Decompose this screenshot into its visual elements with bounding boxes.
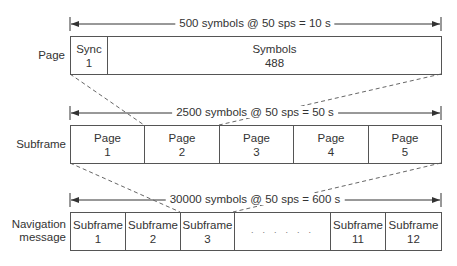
- navigation-message-structure: Subframe 1 Subframe 2 Subframe 3 · · · ·…: [70, 212, 442, 251]
- sync-cell: Sync 1: [71, 37, 108, 74]
- symbols-cell: Symbols 488: [108, 37, 441, 74]
- subframe-cell-12: Subframe 12: [386, 213, 441, 250]
- subframe-cell-11: Subframe 11: [331, 213, 386, 250]
- cell-value: 488: [265, 56, 284, 70]
- cell-value: 1: [86, 56, 92, 70]
- cell-value: 5: [402, 145, 408, 159]
- cell-value: 2: [179, 145, 185, 159]
- cell-title: Subframe: [128, 218, 178, 232]
- ellipsis-dots: · · · · · ·: [251, 225, 315, 239]
- page-cell-3: Page 3: [220, 126, 294, 163]
- label-line-1: Navigation: [2, 218, 66, 231]
- cell-value: 1: [95, 232, 101, 246]
- cell-value: 11: [352, 232, 364, 246]
- cell-title: Subframe: [333, 218, 383, 232]
- cell-title: Page: [392, 131, 419, 145]
- subframe-structure: Page 1 Page 2 Page 3 Page 4 Page 5: [70, 125, 442, 164]
- cell-title: Subframe: [183, 218, 233, 232]
- cell-title: Subframe: [73, 218, 123, 232]
- navigation-row-label: Navigation message: [2, 218, 66, 244]
- subframe-cell-3: Subframe 3: [181, 213, 235, 250]
- subframe-cell-1: Subframe 1: [71, 213, 126, 250]
- cell-title: Sync: [76, 42, 102, 56]
- cell-value: 3: [204, 232, 210, 246]
- page-cell-4: Page 4: [294, 126, 369, 163]
- cell-value: 12: [407, 232, 420, 246]
- cell-title: Subframe: [389, 218, 439, 232]
- page-structure: Sync 1 Symbols 488: [70, 36, 442, 75]
- page-row-label: Page: [20, 49, 65, 62]
- cell-value: 4: [328, 145, 334, 159]
- label-line-2: message: [2, 231, 66, 244]
- cell-title: Symbols: [252, 42, 296, 56]
- cell-value: 3: [253, 145, 259, 159]
- page-dimension-label: 500 symbols @ 50 sps = 10 s: [175, 17, 334, 29]
- page-cell-5: Page 5: [369, 126, 441, 163]
- cell-title: Page: [94, 131, 121, 145]
- navigation-dimension-label: 30000 symbols @ 50 sps = 600 s: [166, 193, 345, 205]
- cell-value: 2: [150, 232, 156, 246]
- subframe-cell-2: Subframe 2: [126, 213, 181, 250]
- ellipsis-cell: · · · · · ·: [235, 213, 331, 250]
- page-cell-2: Page 2: [145, 126, 220, 163]
- cell-value: 1: [104, 145, 110, 159]
- cell-title: Page: [318, 131, 345, 145]
- cell-title: Page: [169, 131, 196, 145]
- page-cell-1: Page 1: [71, 126, 145, 163]
- cell-title: Page: [243, 131, 270, 145]
- subframe-row-label: Subframe: [10, 138, 66, 151]
- subframe-dimension-label: 2500 symbols @ 50 sps = 50 s: [172, 106, 338, 118]
